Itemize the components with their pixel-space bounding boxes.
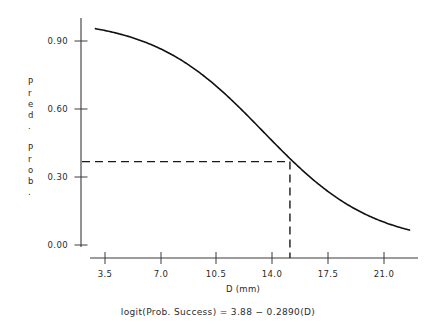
chart-container: 0.90 0.60 0.30 0.00 P r e d . P r o b . bbox=[0, 0, 436, 330]
x-tick-label-17-5: 17.5 bbox=[318, 269, 339, 279]
y-axis-title-char: d bbox=[28, 110, 33, 120]
y-axis-title-char: b bbox=[28, 176, 33, 186]
y-tick-label-090: 0.90 bbox=[47, 36, 68, 46]
x-tick-label-7-0: 7.0 bbox=[154, 269, 169, 279]
y-tick-label-030: 0.30 bbox=[47, 172, 68, 182]
x-axis-title: D (mm) bbox=[226, 284, 260, 294]
y-axis-title-char: . bbox=[28, 187, 31, 197]
y-axis-title-char: . bbox=[28, 121, 31, 131]
y-tick-label-000: 0.00 bbox=[47, 240, 68, 250]
y-axis-title: P r e d . P r o b . bbox=[28, 77, 33, 197]
y-axis-title-char: P bbox=[28, 77, 33, 87]
y-tick-label-060: 0.60 bbox=[47, 104, 68, 114]
y-axis-title-char: r bbox=[28, 88, 32, 98]
y-axis-title-char: r bbox=[28, 154, 32, 164]
predicted-probability-curve bbox=[95, 29, 409, 230]
x-tick-label-14-0: 14.0 bbox=[262, 269, 283, 279]
logistic-regression-chart: 0.90 0.60 0.30 0.00 P r e d . P r o b . bbox=[0, 0, 436, 330]
x-tick-label-3-5: 3.5 bbox=[98, 269, 113, 279]
y-axis-title-char: P bbox=[28, 143, 33, 153]
x-tick-label-10-5: 10.5 bbox=[206, 269, 227, 279]
x-tick-label-21-0: 21.0 bbox=[374, 269, 395, 279]
y-axis-title-char: e bbox=[28, 99, 33, 109]
y-axis-title-char: o bbox=[28, 165, 33, 175]
model-equation: logit(Prob. Success) = 3.88 − 0.2890(D) bbox=[121, 307, 315, 317]
